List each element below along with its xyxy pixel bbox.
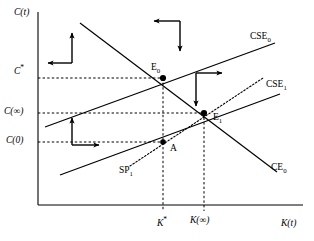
point-label-e1-subscript: 1 xyxy=(219,117,222,124)
curve-label-sp1-base: SP xyxy=(119,165,130,175)
point-e1-marker xyxy=(201,110,207,116)
y-tick-c-star-superscript: * xyxy=(20,63,24,72)
curve-label-cse0-base: CSE xyxy=(250,31,267,41)
x-tick-k-star: K* xyxy=(157,216,167,229)
x-axis-label: K(t) xyxy=(281,219,296,229)
curve-label-ce0: CE0 xyxy=(271,163,287,175)
curve-label-sp1: SP1 xyxy=(119,166,133,178)
point-label-e0: E0 xyxy=(151,63,160,75)
y-tick-c-star: C* xyxy=(14,64,24,77)
y-axis-label: C(t) xyxy=(14,8,29,18)
point-label-e1: E1 xyxy=(213,113,222,125)
curve-label-ce0-base: CE xyxy=(271,162,283,172)
x-tick-k-infinity: K(∞) xyxy=(190,216,209,226)
arrow-group-lower-left xyxy=(72,118,99,145)
curve-label-cse0: CSE0 xyxy=(250,32,271,44)
point-a-marker xyxy=(160,139,166,145)
arrow-group-middle-right xyxy=(196,73,222,106)
point-label-e0-subscript: 0 xyxy=(157,67,160,74)
x-tick-k-star-superscript: * xyxy=(163,215,167,224)
curve-label-cse0-subscript: 0 xyxy=(267,36,270,43)
arrow-group-top-middle xyxy=(154,21,180,51)
curve-label-cse1-base: CSE xyxy=(266,79,283,89)
curve-cse1 xyxy=(60,94,280,175)
curve-label-sp1-subscript: 1 xyxy=(130,170,133,177)
curve-cse0 xyxy=(45,43,275,127)
arrow-group-upper-left xyxy=(48,33,72,63)
curve-ce0 xyxy=(80,23,277,172)
y-tick-c-zero: C(0) xyxy=(6,136,23,146)
point-e0-marker xyxy=(160,75,166,81)
curve-label-cse1: CSE1 xyxy=(266,80,287,92)
curve-label-cse1-subscript: 1 xyxy=(283,84,286,91)
curve-label-ce0-subscript: 0 xyxy=(283,167,286,174)
point-label-a: A xyxy=(170,144,177,154)
phase-diagram-figure: C(t) K(t) C* C(∞) C(0) K* K(∞) CSE0 CSE1… xyxy=(0,0,314,241)
y-tick-c-infinity: C(∞) xyxy=(4,107,23,117)
